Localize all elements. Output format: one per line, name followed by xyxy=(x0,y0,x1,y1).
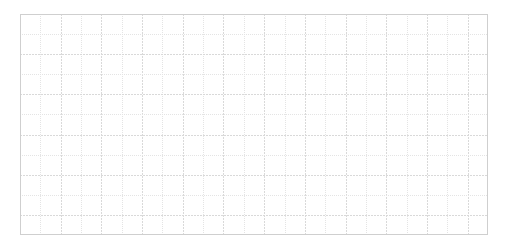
page-canvas xyxy=(0,0,506,247)
grid-border xyxy=(20,14,488,235)
graph-paper-grid[interactable] xyxy=(20,14,488,235)
grid-lines xyxy=(20,14,488,235)
